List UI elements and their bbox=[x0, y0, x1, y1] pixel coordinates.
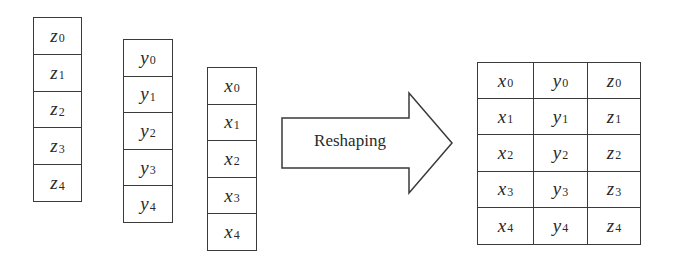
cell-sub: 4 bbox=[150, 200, 156, 215]
cell-z0: z0 bbox=[34, 18, 81, 55]
cell-y2: y2 bbox=[124, 113, 172, 150]
cell-sub: 0 bbox=[507, 76, 513, 91]
cell-var: y bbox=[553, 215, 561, 237]
arrow-label: Reshaping bbox=[300, 131, 400, 151]
cell-var: z bbox=[607, 178, 614, 200]
cell-sub: 2 bbox=[234, 154, 240, 169]
cell-var: y bbox=[553, 70, 561, 92]
cell-z2: z2 bbox=[34, 92, 81, 129]
cell-var: y bbox=[553, 106, 561, 128]
cell-sub: 1 bbox=[615, 112, 621, 127]
matrix-cell-x2: x2 bbox=[478, 135, 534, 171]
cell-var: x bbox=[224, 111, 232, 133]
cell-var: y bbox=[140, 83, 148, 105]
cell-y3: y3 bbox=[124, 150, 172, 187]
cell-var: y bbox=[553, 142, 561, 164]
cell-sub: 3 bbox=[562, 185, 568, 200]
cell-sub: 0 bbox=[150, 53, 156, 68]
cell-sub: 3 bbox=[59, 142, 65, 157]
matrix-cell-y3: y3 bbox=[534, 172, 588, 208]
matrix-cell-x3: x3 bbox=[478, 172, 534, 208]
matrix-cell-y1: y1 bbox=[534, 99, 588, 135]
cell-z4: z4 bbox=[34, 165, 81, 201]
cell-sub: 3 bbox=[150, 163, 156, 178]
cell-x1: x1 bbox=[208, 105, 256, 142]
cell-var: x bbox=[498, 106, 506, 128]
cell-sub: 2 bbox=[615, 148, 621, 163]
matrix-cell-z1: z1 bbox=[588, 99, 640, 135]
cell-var: z bbox=[607, 70, 614, 92]
cell-var: x bbox=[224, 221, 232, 243]
matrix-cell-x1: x1 bbox=[478, 99, 534, 135]
column-z: z0 z1 z2 z3 z4 bbox=[33, 17, 82, 202]
cell-sub: 0 bbox=[59, 31, 65, 46]
matrix-cell-y2: y2 bbox=[534, 135, 588, 171]
cell-sub: 1 bbox=[59, 68, 65, 83]
cell-var: y bbox=[140, 157, 148, 179]
matrix-cell-z3: z3 bbox=[588, 172, 640, 208]
cell-var: y bbox=[140, 47, 148, 69]
matrix-cell-x0: x0 bbox=[478, 63, 534, 99]
cell-z3: z3 bbox=[34, 128, 81, 165]
output-matrix: x0 y0 z0 x1 y1 z1 x2 y2 z2 x3 y3 z3 x4 y… bbox=[477, 62, 641, 245]
cell-x4: x4 bbox=[208, 214, 256, 250]
cell-sub: 1 bbox=[562, 112, 568, 127]
matrix-cell-y4: y4 bbox=[534, 208, 588, 244]
cell-var: z bbox=[50, 62, 57, 84]
cell-sub: 2 bbox=[507, 148, 513, 163]
cell-sub: 2 bbox=[150, 126, 156, 141]
cell-var: x bbox=[498, 215, 506, 237]
cell-sub: 4 bbox=[615, 221, 621, 236]
cell-x3: x3 bbox=[208, 178, 256, 215]
matrix-cell-y0: y0 bbox=[534, 63, 588, 99]
cell-sub: 4 bbox=[562, 221, 568, 236]
cell-sub: 3 bbox=[615, 185, 621, 200]
cell-var: z bbox=[50, 135, 57, 157]
cell-var: z bbox=[50, 98, 57, 120]
matrix-cell-z4: z4 bbox=[588, 208, 640, 244]
cell-var: z bbox=[607, 215, 614, 237]
cell-sub: 3 bbox=[234, 191, 240, 206]
column-y: y0 y1 y2 y3 y4 bbox=[123, 39, 173, 223]
cell-sub: 4 bbox=[507, 221, 513, 236]
cell-var: x bbox=[498, 70, 506, 92]
cell-var: z bbox=[50, 172, 57, 194]
cell-var: x bbox=[498, 178, 506, 200]
cell-var: x bbox=[224, 75, 232, 97]
cell-y4: y4 bbox=[124, 186, 172, 222]
cell-sub: 1 bbox=[507, 112, 513, 127]
cell-var: y bbox=[140, 193, 148, 215]
cell-sub: 1 bbox=[150, 90, 156, 105]
cell-x0: x0 bbox=[208, 68, 256, 105]
cell-var: z bbox=[607, 142, 614, 164]
matrix-cell-z2: z2 bbox=[588, 135, 640, 171]
cell-var: z bbox=[50, 25, 57, 47]
cell-sub: 4 bbox=[59, 179, 65, 194]
cell-sub: 2 bbox=[562, 148, 568, 163]
cell-sub: 0 bbox=[234, 81, 240, 96]
cell-sub: 0 bbox=[562, 76, 568, 91]
cell-sub: 0 bbox=[615, 76, 621, 91]
matrix-cell-x4: x4 bbox=[478, 208, 534, 244]
cell-y0: y0 bbox=[124, 40, 172, 77]
cell-x2: x2 bbox=[208, 141, 256, 178]
cell-var: y bbox=[553, 178, 561, 200]
cell-var: y bbox=[140, 120, 148, 142]
cell-var: x bbox=[224, 148, 232, 170]
cell-sub: 4 bbox=[234, 228, 240, 243]
cell-sub: 1 bbox=[234, 118, 240, 133]
cell-sub: 3 bbox=[507, 185, 513, 200]
cell-y1: y1 bbox=[124, 77, 172, 114]
cell-var: z bbox=[607, 106, 614, 128]
cell-var: x bbox=[498, 142, 506, 164]
cell-z1: z1 bbox=[34, 55, 81, 92]
cell-sub: 2 bbox=[59, 105, 65, 120]
column-x: x0 x1 x2 x3 x4 bbox=[207, 67, 257, 251]
cell-var: x bbox=[224, 185, 232, 207]
matrix-cell-z0: z0 bbox=[588, 63, 640, 99]
